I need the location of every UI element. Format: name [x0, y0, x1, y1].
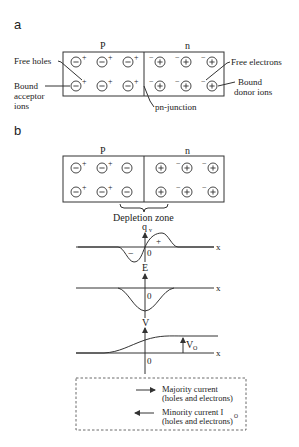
svg-text:+: +: [108, 159, 113, 168]
svg-text:q: q: [142, 221, 147, 232]
bound-donor-label-1: Bound: [238, 77, 263, 87]
bound-acceptor-label-1: Bound: [14, 81, 39, 91]
svg-text:−: −: [202, 159, 207, 168]
svg-text:+: +: [134, 77, 139, 86]
svg-text:−: −: [128, 248, 134, 259]
svg-text:0: 0: [147, 356, 152, 366]
depletion-zone-brace: [120, 204, 168, 212]
svg-text:+: +: [134, 53, 139, 62]
svg-text:−: −: [149, 77, 154, 86]
svg-text:−: −: [201, 77, 206, 86]
svg-text:+: +: [108, 77, 113, 86]
svg-text:−: −: [176, 183, 181, 192]
potential-plot: V x 0 V O: [76, 317, 221, 374]
p-side-ions: + + + +: [71, 159, 132, 197]
svg-text:(holes and electrons): (holes and electrons): [162, 393, 233, 403]
pn-junction-diagram: a P n + + + + + + − − − − − −: [0, 0, 299, 447]
svg-text:x: x: [216, 348, 221, 358]
n-region-label: n: [185, 40, 190, 51]
svg-text:v: v: [149, 227, 152, 233]
free-holes-label: Free holes: [14, 56, 52, 66]
bound-acceptor-label-3: ions: [14, 101, 30, 111]
svg-text:+: +: [108, 53, 113, 62]
svg-text:V: V: [142, 317, 150, 328]
n-region-label-b: n: [185, 145, 190, 156]
svg-text:+: +: [82, 53, 87, 62]
p-region-label: P: [100, 40, 106, 51]
svg-text:−: −: [175, 53, 180, 62]
panel-b-label: b: [14, 123, 21, 138]
svg-text:+: +: [82, 159, 87, 168]
svg-text:−: −: [175, 77, 180, 86]
free-electrons-label: Free electrons: [231, 57, 282, 67]
svg-text:−: −: [149, 53, 154, 62]
svg-text:+: +: [108, 183, 113, 192]
svg-text:−: −: [201, 53, 206, 62]
svg-text:O: O: [193, 345, 198, 351]
charge-density-plot: q v x 0 − +: [76, 221, 221, 262]
svg-text:−: −: [176, 159, 181, 168]
current-legend: Majority current (holes and electrons) M…: [76, 378, 246, 430]
bound-donor-label-2: donor ions: [234, 87, 273, 97]
p-region-label-b: P: [100, 145, 106, 156]
bound-donor-leader: [218, 82, 235, 86]
svg-text:+: +: [82, 183, 87, 192]
acceptor-ions-row-1: + + +: [71, 53, 139, 67]
svg-text:+: +: [82, 77, 87, 86]
semiconductor-block-a: + + + + + + − − − − − −: [63, 52, 224, 96]
svg-text:x: x: [216, 242, 221, 252]
svg-text:E: E: [142, 262, 148, 273]
semiconductor-block-b: + + + + − − − −: [63, 156, 224, 202]
n-side-ions: − − − −: [156, 159, 218, 197]
svg-text:−: −: [202, 183, 207, 192]
svg-text:O: O: [234, 413, 238, 419]
svg-text:+: +: [156, 236, 161, 246]
electric-field-plot: E x 0: [76, 262, 221, 318]
pn-junction-label: pn-junction: [155, 102, 197, 112]
svg-text:(holes and electrons): (holes and electrons): [162, 416, 233, 426]
panel-a-label: a: [14, 17, 22, 32]
bound-acceptor-label-2: acceptor: [14, 91, 44, 101]
svg-text:0: 0: [147, 248, 152, 258]
donor-ions-row-1: − − −: [149, 53, 217, 67]
svg-text:0: 0: [147, 291, 152, 301]
svg-text:x: x: [216, 283, 221, 293]
